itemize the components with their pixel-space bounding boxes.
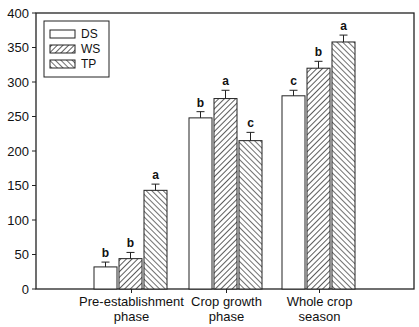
significance-letter: c (247, 116, 254, 130)
x-tick-label: phase (114, 309, 149, 324)
y-tick-label: 100 (7, 213, 29, 228)
significance-letter: b (102, 246, 109, 260)
x-tick-label: Crop growth (191, 294, 262, 309)
legend-swatch-ws (50, 45, 75, 53)
legend-swatch-ds (50, 30, 75, 38)
bar-ws (307, 68, 330, 289)
x-tick-label: Whole crop (287, 294, 353, 309)
bar-chart: 050100150200250300350400bbaPre-establish… (0, 0, 419, 327)
bar-tp (144, 190, 167, 289)
y-tick-label: 0 (22, 282, 29, 297)
significance-letter: a (222, 74, 229, 88)
bar-ws (214, 99, 237, 289)
y-tick-label: 350 (7, 40, 29, 55)
y-tick-label: 300 (7, 75, 29, 90)
bar-ws (119, 259, 142, 289)
bar-ds (282, 96, 305, 289)
significance-letter: a (340, 19, 347, 33)
bar-tp (332, 42, 355, 289)
y-tick-label: 50 (15, 247, 29, 262)
x-tick-label: phase (209, 309, 244, 324)
bar-ds (94, 267, 117, 289)
legend-swatch-tp (50, 60, 75, 68)
significance-letter: c (290, 74, 297, 88)
significance-letter: b (315, 45, 322, 59)
significance-letter: b (197, 96, 204, 110)
legend-label: TP (81, 57, 96, 71)
y-tick-label: 400 (7, 6, 29, 21)
legend-label: WS (81, 42, 100, 56)
significance-letter: b (127, 236, 134, 250)
significance-letter: a (152, 168, 159, 182)
y-tick-label: 250 (7, 109, 29, 124)
x-tick-label: Pre-establishment (79, 294, 184, 309)
y-tick-label: 150 (7, 178, 29, 193)
plot-area: 050100150200250300350400bbaPre-establish… (7, 6, 414, 325)
bar-ds (189, 118, 212, 289)
bar-tp (239, 141, 262, 289)
legend-label: DS (81, 27, 98, 41)
x-tick-label: season (299, 309, 341, 324)
y-tick-label: 200 (7, 144, 29, 159)
